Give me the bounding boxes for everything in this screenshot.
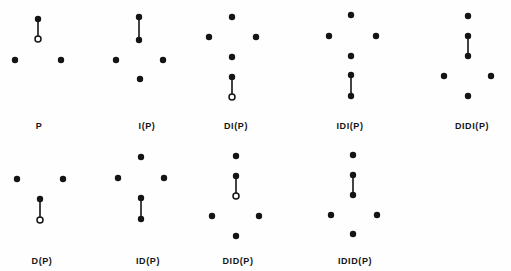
panel-di-p-node-4-filled-dot (229, 74, 235, 80)
panel-didi-p-node-5-filled-dot (465, 93, 471, 99)
panel-did-p (209, 153, 262, 239)
panel-i-p-node-3-filled-dot (160, 57, 166, 63)
panel-didi-p-node-2-filled-dot (465, 53, 471, 59)
panel-idi-p-node-0-filled-dot (348, 12, 354, 18)
panel-idid-p-node-3-filled-dot (328, 212, 334, 218)
panel-did-p-node-0-filled-dot (233, 153, 239, 159)
panel-i-p-node-0-filled-dot (136, 14, 142, 20)
panel-di-p-node-5-open-dot (229, 94, 235, 100)
panel-id-p-label: ID(P) (136, 256, 160, 266)
panel-i-p-node-2-filled-dot (113, 57, 119, 63)
panel-idi-p-node-3-filled-dot (348, 53, 354, 59)
panel-di-p-node-1-filled-dot (206, 34, 212, 40)
panel-d-p-node-1-filled-dot (60, 176, 66, 182)
panel-id-p-node-3-filled-dot (138, 195, 144, 201)
panel-di-p (206, 14, 259, 100)
panel-p (12, 16, 64, 63)
panel-idi-p (326, 12, 379, 99)
panel-d-p-node-3-open-dot (37, 217, 43, 223)
panel-d-p-node-0-filled-dot (14, 176, 20, 182)
panel-did-p-node-3-filled-dot (209, 213, 215, 219)
panel-idi-p-label: IDI(P) (336, 121, 363, 131)
panel-id-p-node-0-filled-dot (138, 154, 144, 160)
panel-idid-p-node-2-filled-dot (350, 192, 356, 198)
panel-id-p-node-2-filled-dot (161, 175, 167, 181)
panel-d-p (14, 176, 66, 223)
panel-d-p-node-2-filled-dot (37, 196, 43, 202)
panel-didi-p (441, 13, 494, 99)
panel-did-p-node-5-filled-dot (233, 233, 239, 239)
panel-di-p-label: DI(P) (224, 121, 248, 131)
panel-didi-p-node-0-filled-dot (465, 13, 471, 19)
panel-idi-p-node-1-filled-dot (326, 33, 332, 39)
panel-d-p-label: D(P) (32, 256, 53, 266)
panel-did-p-node-2-open-dot (233, 193, 239, 199)
panel-di-p-node-3-filled-dot (229, 54, 235, 60)
panel-p-label: P (36, 121, 43, 131)
panel-idi-p-node-4-filled-dot (348, 72, 354, 78)
panel-idid-p-node-4-filled-dot (374, 212, 380, 218)
panel-i-p-label: I(P) (139, 121, 156, 131)
panel-p-node-3-filled-dot (58, 57, 64, 63)
panel-did-p-label: DID(P) (222, 256, 253, 266)
panel-i-p-node-1-filled-dot (136, 37, 142, 43)
panel-p-node-2-filled-dot (12, 57, 18, 63)
panel-id-p-node-4-filled-dot (138, 216, 144, 222)
panel-idi-p-node-5-filled-dot (348, 93, 354, 99)
panel-id-p (115, 154, 167, 222)
point-configuration-figure (0, 0, 511, 271)
panel-di-p-node-2-filled-dot (253, 34, 259, 40)
panel-didi-p-node-3-filled-dot (441, 73, 447, 79)
panel-idid-p-node-5-filled-dot (350, 231, 356, 237)
panel-didi-p-node-1-filled-dot (465, 33, 471, 39)
panel-idi-p-node-2-filled-dot (373, 33, 379, 39)
panel-didi-p-label: DIDI(P) (455, 121, 489, 131)
panel-i-p (113, 14, 166, 82)
panel-id-p-node-1-filled-dot (115, 175, 121, 181)
panel-idid-p-node-1-filled-dot (350, 172, 356, 178)
panel-p-node-0-filled-dot (35, 16, 41, 22)
panel-di-p-node-0-filled-dot (229, 14, 235, 20)
panel-didi-p-node-4-filled-dot (488, 73, 494, 79)
panel-did-p-node-1-filled-dot (233, 173, 239, 179)
panel-idid-p (328, 152, 380, 237)
panel-idid-p-label: IDID(P) (338, 256, 372, 266)
panel-did-p-node-4-filled-dot (256, 213, 262, 219)
panel-p-node-1-open-dot (35, 36, 41, 42)
panel-i-p-node-4-filled-dot (137, 76, 143, 82)
panel-idid-p-node-0-filled-dot (350, 152, 356, 158)
